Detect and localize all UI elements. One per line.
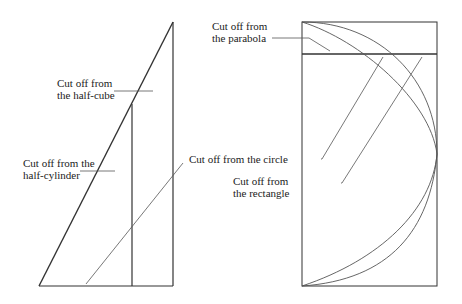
diagram-canvas (0, 0, 462, 304)
label-line: Cut off from (212, 20, 267, 32)
label-half-cylinder: Cut off from the half-cylinder (23, 157, 95, 181)
right-rectangle (302, 22, 437, 286)
label-line: Cut off from the (23, 157, 95, 169)
label-line: Cut off from the circle (189, 153, 288, 165)
label-circle: Cut off from the circle (189, 153, 288, 165)
label-line: the half-cube (57, 89, 115, 101)
left-triangle (39, 22, 173, 286)
label-parabola: Cut off from the parabola (212, 20, 267, 44)
label-line: Cut off from (233, 175, 286, 187)
right-leaders (272, 38, 422, 183)
label-line: the rectangle (233, 187, 286, 199)
label-rectangle: Cut off from the rectangle (233, 175, 286, 199)
curves (302, 22, 437, 286)
label-line: the parabola (212, 32, 267, 44)
label-half-cube: Cut off from the half-cube (57, 77, 115, 101)
label-line: half-cylinder (23, 169, 95, 181)
label-line: Cut off from (57, 77, 115, 89)
